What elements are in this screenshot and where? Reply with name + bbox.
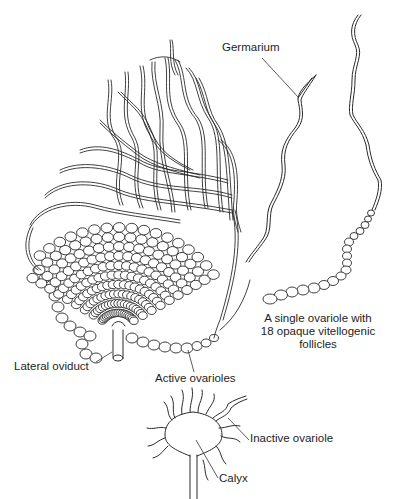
follicle: [91, 234, 102, 243]
follicle: [147, 238, 158, 247]
follicle: [150, 229, 162, 239]
follicle: [54, 237, 66, 247]
follicle: [80, 237, 91, 246]
label-single-ovariole: A single ovariole with 18 opaque vitello…: [260, 312, 376, 351]
label-active-ovarioles: Active ovarioles: [155, 372, 236, 385]
lateral-oviduct: [112, 322, 125, 362]
follicle: [114, 232, 125, 241]
single-ovariole-germarium: [246, 75, 316, 262]
follicle: [138, 312, 147, 320]
follicle: [103, 242, 114, 251]
follicle: [156, 301, 166, 309]
follicle: [113, 223, 125, 233]
label-inactive-ovariole: Inactive ovariole: [250, 432, 333, 445]
follicle: [27, 273, 38, 282]
follicle: [93, 244, 104, 253]
follicle: [162, 233, 174, 243]
follicle: [89, 225, 101, 235]
leader-inactive-ovariole: [228, 418, 249, 440]
follicle: [126, 223, 138, 233]
leader-germarium: [262, 58, 299, 98]
follicle: [65, 232, 77, 242]
follicle: [164, 296, 174, 304]
follicle: [192, 252, 204, 262]
follicle: [147, 307, 156, 315]
follicle: [34, 265, 45, 274]
follicle: [70, 241, 81, 250]
label-germarium: Germarium: [222, 41, 280, 54]
follicle: [200, 261, 212, 271]
leader-calyx: [196, 440, 218, 478]
single-ovariole-follicles: [263, 15, 382, 304]
follicle: [173, 291, 183, 300]
follicle: [124, 242, 135, 251]
follicle: [173, 238, 185, 248]
follicle: [136, 235, 147, 244]
label-lateral-oviduct: Lateral oviduct: [14, 360, 89, 373]
follicle: [157, 242, 168, 251]
follicle: [114, 242, 125, 251]
follicle: [138, 225, 150, 235]
active-ovarioles-mass: [26, 210, 250, 363]
follicle: [134, 244, 145, 253]
follicle: [183, 245, 195, 255]
follicle: [125, 233, 136, 242]
ovary-diagram: Germarium A single ovariole with 18 opaq…: [0, 0, 398, 499]
follicle: [208, 270, 220, 280]
illustration-canvas: [0, 0, 398, 499]
ovary-upper-tubules: [30, 40, 241, 232]
follicle: [101, 223, 113, 233]
follicle: [130, 317, 139, 324]
leader-active-ovarioles: [188, 350, 194, 372]
label-calyx: Calyx: [219, 472, 248, 485]
follicle: [102, 233, 113, 242]
follicle: [44, 244, 56, 254]
follicle: [84, 246, 95, 255]
follicle: [77, 228, 89, 238]
follicle: [34, 251, 46, 261]
